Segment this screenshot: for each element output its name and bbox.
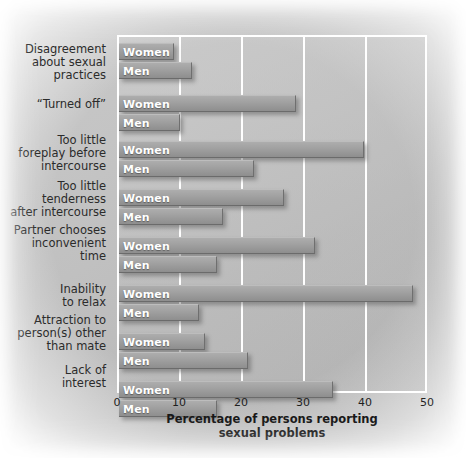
bar-label: Men — [123, 116, 150, 129]
bar-label: Women — [123, 239, 170, 252]
category-label: Attraction to person(s) other than mate — [0, 314, 106, 353]
bar-label: Men — [123, 354, 150, 367]
bar-label: Men — [123, 210, 150, 223]
category-label: Inability to relax — [0, 283, 106, 309]
category-label: Partner chooses inconvenient time — [0, 224, 106, 263]
bar-men: Men — [119, 304, 199, 321]
bar-label: Men — [123, 258, 150, 271]
bar-label: Men — [123, 64, 150, 77]
category-label: Disagreement about sexual practices — [0, 43, 106, 82]
bar-label: Women — [123, 143, 170, 156]
bar-group: WomenMen — [119, 95, 425, 133]
bar-label: Men — [123, 162, 150, 175]
category-label: Lack of interest — [0, 364, 106, 390]
bar-men: Men — [119, 160, 254, 177]
x-axis: 0 10 20 30 40 50 — [117, 396, 427, 412]
chart-figure: Disagreement about sexual practices “Tur… — [0, 0, 466, 458]
x-tick-label: 50 — [420, 396, 434, 409]
bar-men: Men — [119, 352, 248, 369]
bar-label: Women — [123, 383, 170, 396]
bar-women: Women — [119, 189, 284, 206]
plot-area: WomenMenWomenMenWomenMenWomenMenWomenMen… — [117, 35, 427, 393]
bar-label: Women — [123, 191, 170, 204]
x-tick-label: 40 — [358, 396, 372, 409]
bar-women: Women — [119, 333, 205, 350]
bar-group: WomenMen — [119, 43, 425, 81]
bar-label: Women — [123, 45, 170, 58]
bar-women: Women — [119, 285, 413, 302]
category-label: “Turned off” — [0, 98, 106, 111]
x-axis-title-line2: sexual problems — [117, 426, 427, 440]
bar-women: Women — [119, 141, 364, 158]
bar-men: Men — [119, 208, 223, 225]
category-label-column: Disagreement about sexual practices “Tur… — [0, 0, 112, 458]
x-axis-title: Percentage of persons reporting sexual p… — [117, 412, 427, 440]
x-tick-label: 10 — [172, 396, 186, 409]
bar-group: WomenMen — [119, 141, 425, 179]
category-label: Too little foreplay before intercourse — [0, 134, 106, 173]
x-axis-title-line1: Percentage of persons reporting — [117, 412, 427, 426]
bar-women: Women — [119, 95, 296, 112]
x-tick-label: 20 — [234, 396, 248, 409]
bar-group: WomenMen — [119, 285, 425, 323]
bar-group: WomenMen — [119, 237, 425, 275]
bar-label: Women — [123, 97, 170, 110]
bar-label: Women — [123, 335, 170, 348]
bar-group: WomenMen — [119, 189, 425, 227]
bar-men: Men — [119, 114, 180, 131]
bar-group: WomenMen — [119, 333, 425, 371]
bar-label: Men — [123, 306, 150, 319]
x-tick-label: 0 — [114, 396, 121, 409]
bar-women: Women — [119, 43, 174, 60]
bar-men: Men — [119, 256, 217, 273]
bar-women: Women — [119, 237, 315, 254]
bar-men: Men — [119, 62, 192, 79]
category-label: Too little tenderness after intercourse — [0, 180, 106, 219]
bar-label: Women — [123, 287, 170, 300]
x-tick-label: 30 — [296, 396, 310, 409]
